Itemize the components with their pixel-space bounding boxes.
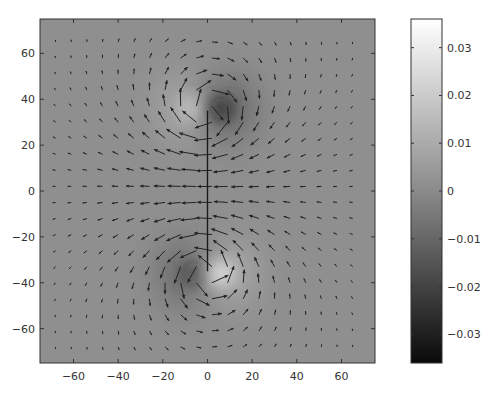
quiver-arrow	[337, 42, 338, 44]
x-tick-label: 40	[290, 370, 304, 383]
colorbar-tick-label: 0.03	[447, 42, 472, 55]
colorbar-tick-label: 0.02	[447, 89, 472, 102]
colorbar-tick-label: 0	[447, 185, 454, 198]
colorbar-gradient	[411, 19, 442, 363]
quiver-arrow	[102, 55, 103, 58]
quiver-arrow	[86, 39, 87, 42]
quiver-arrow	[321, 58, 322, 61]
quiver-arrow	[55, 331, 56, 333]
quiver-arrow	[321, 344, 322, 347]
quiver-arrow	[53, 186, 56, 187]
colorbar-tick-label: −0.02	[447, 281, 481, 294]
quiver-arrow	[352, 345, 353, 347]
quiver-arrow	[352, 329, 353, 331]
x-tick-label: 0	[204, 370, 211, 383]
x-tick-label: 60	[335, 370, 349, 383]
quiver-arrow	[71, 40, 72, 42]
quiver-arrow	[87, 347, 88, 349]
plot-area: −60−40−200204060 −60−40−200204060	[12, 19, 375, 383]
quiver-arrow	[102, 331, 103, 334]
quiver-arrow	[71, 347, 72, 349]
quiver-arrow	[321, 42, 322, 45]
y-tick-label: −60	[12, 323, 35, 336]
figure: −60−40−200204060 −60−40−200204060 0.030.…	[0, 0, 489, 395]
quiver-arrow	[336, 328, 337, 331]
quiver-arrow	[55, 40, 56, 42]
x-tick-label: 20	[245, 370, 259, 383]
quiver-arrow	[305, 58, 306, 62]
y-tick-label: 0	[28, 185, 35, 198]
quiver-arrow	[321, 328, 322, 331]
quiver-arrow	[352, 42, 353, 44]
colorbar-tick-label: −0.03	[447, 328, 481, 341]
quiver-arrow	[55, 347, 56, 349]
y-tick-label: −20	[12, 231, 35, 244]
x-tick-label: −60	[62, 370, 85, 383]
y-tick-label: −40	[12, 277, 35, 290]
quiver-arrow	[86, 331, 87, 334]
colorbar-tick-label: 0.01	[447, 137, 472, 150]
quiver-arrow	[71, 331, 72, 333]
colorbar-tick-label: −0.01	[447, 233, 481, 246]
y-tick-label: 40	[21, 93, 35, 106]
y-tick-label: 20	[21, 139, 35, 152]
quiver-arrow	[349, 186, 352, 187]
x-tick-label: −40	[107, 370, 130, 383]
x-tick-label: −20	[151, 370, 174, 383]
y-tick-label: 60	[21, 47, 35, 60]
colorbar: 0.030.020.010−0.01−0.02−0.03	[411, 19, 481, 363]
quiver-arrow	[337, 345, 338, 347]
